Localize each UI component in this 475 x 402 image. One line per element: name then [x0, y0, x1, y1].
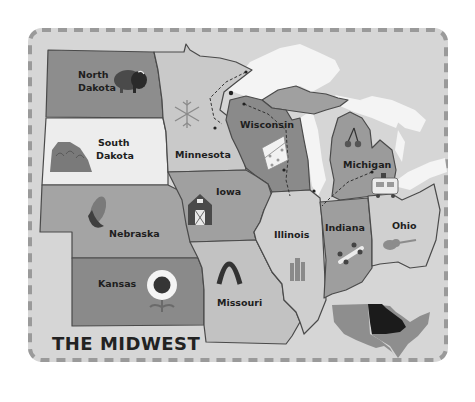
map-title: THE MIDWEST — [52, 333, 201, 354]
label-south-dakota-line1: South — [98, 137, 130, 148]
label-iowa: Iowa — [216, 186, 241, 197]
state-kansas[interactable] — [72, 258, 204, 326]
label-nebraska: Nebraska — [109, 228, 160, 239]
label-south-dakota-line2: Dakota — [96, 150, 134, 161]
label-minnesota: Minnesota — [175, 149, 231, 160]
label-wisconsin: Wisconsin — [240, 119, 294, 130]
label-kansas: Kansas — [98, 278, 137, 289]
label-ohio: Ohio — [392, 220, 417, 231]
label-missouri: Missouri — [217, 297, 262, 308]
label-illinois: Illinois — [274, 229, 310, 240]
label-indiana: Indiana — [325, 222, 365, 233]
label-north-dakota-line2: Dakota — [78, 82, 116, 93]
label-north-dakota-line1: North — [78, 69, 109, 80]
label-michigan: Michigan — [343, 159, 392, 170]
sunflower-icon — [147, 270, 177, 312]
